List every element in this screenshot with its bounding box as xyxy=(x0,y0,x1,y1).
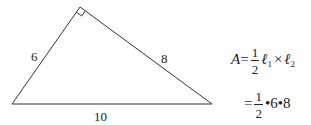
right-angle-marker xyxy=(76,11,85,16)
triangle-shape xyxy=(12,7,212,104)
product-expression: •6•8 xyxy=(265,95,291,111)
area-formula-line1: A=12ℓ1×ℓ2 xyxy=(231,46,295,76)
equals-sign: = xyxy=(244,95,252,111)
fraction-half: 12 xyxy=(254,90,263,120)
side-label-hypotenuse: 10 xyxy=(94,110,107,123)
fraction-half: 12 xyxy=(251,46,260,76)
side-label-left-leg: 6 xyxy=(31,50,38,63)
equals-sign: = xyxy=(240,51,248,67)
side-label-right-leg: 8 xyxy=(161,52,168,65)
area-formula-line2: =12•6•8 xyxy=(244,90,290,120)
times-sign: × xyxy=(274,51,282,67)
area-symbol: A xyxy=(231,51,240,67)
